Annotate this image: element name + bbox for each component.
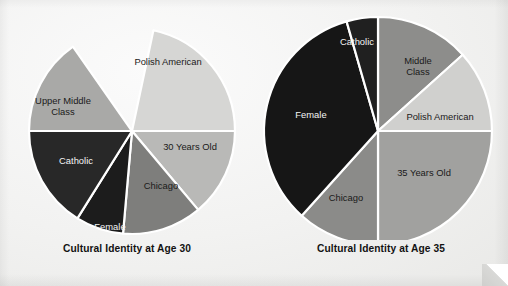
pie-slice-label-female: Female: [295, 109, 326, 120]
pie-slice-label-middle-class: MiddleClass: [404, 55, 432, 78]
pie-slice-label-chicago: Chicago: [329, 192, 363, 203]
page-corner-fold: [482, 264, 508, 286]
pie-svg-age-30: Polish American30 Years OldChicagoFemale…: [0, 0, 254, 240]
pie-slice-label-catholic: Catholic: [59, 155, 93, 166]
chart-age-30: Polish American30 Years OldChicagoFemale…: [0, 0, 254, 286]
pie-slice-polish-american[interactable]: [132, 30, 235, 131]
chart-caption-age-35: Cultural Identity at Age 35: [254, 243, 508, 254]
pie-slice-label-female: Female: [94, 221, 125, 232]
pie-slice-label-35-years-old: 35 Years Old: [397, 167, 451, 178]
pie-svg-age-35: MiddleClassPolish American35 Years OldCh…: [254, 0, 508, 240]
pie-slice-label-polish-american: Polish American: [406, 111, 473, 122]
pie-slice-label-chicago: Chicago: [144, 180, 178, 191]
figure-pie-chart-pair: Polish American30 Years OldChicagoFemale…: [0, 0, 508, 286]
pie-slice-35-years-old[interactable]: [378, 131, 492, 240]
pie-slice-label-catholic: Catholic: [340, 36, 374, 47]
pie-slice-label-30-years-old: 30 Years Old: [163, 141, 217, 152]
pie-slices-age-35: [264, 17, 492, 240]
pie-slices-age-30: [29, 30, 235, 234]
chart-caption-age-30: Cultural Identity at Age 30: [0, 243, 254, 254]
pie-slice-label-polish-american: Polish American: [134, 56, 201, 67]
pie-slice-upper-middle-class[interactable]: [29, 47, 132, 131]
chart-age-35: MiddleClassPolish American35 Years OldCh…: [254, 0, 508, 286]
